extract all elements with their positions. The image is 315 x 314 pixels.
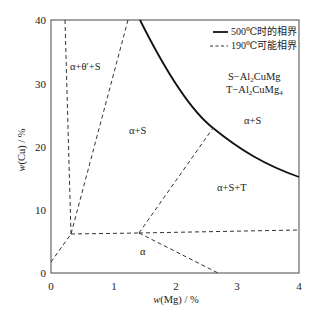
dashed-left-vertical [65,20,71,234]
dashed-alpha-s-t-boundary [139,128,213,233]
x-axis-title: w(Mg) / % [153,294,199,306]
x-tick-4: 4 [296,280,302,292]
x-tick-2: 2 [173,280,179,292]
dashed-lower-right [139,233,218,273]
legend-dashed-label: 190℃可能相界 [231,39,297,51]
x-tick-0: 0 [48,280,54,292]
y-tick-20: 20 [35,141,47,153]
dashed-left-slant [71,20,128,234]
plot-frame [51,20,299,273]
y-axis-ticks: 40 30 20 10 0 [35,14,47,279]
s-phase-formula: S−Al2CuMg [228,71,281,84]
y-tick-40: 40 [35,14,47,26]
boundaries-190c [51,20,299,273]
region-alpha: α [140,246,146,257]
legend-solid-label: 500℃时的相界 [231,25,297,37]
y-tick-0: 0 [41,267,47,279]
x-axis-ticks: 0 1 2 3 4 [48,280,302,292]
dashed-horizontal-right [139,230,299,233]
dashed-horizontal-left [71,233,139,234]
x-tick-1: 1 [111,280,117,292]
x-tick-3: 3 [234,280,240,292]
y-tick-30: 30 [35,78,47,90]
phase-diagram: 40 30 20 10 0 0 1 2 3 4 w(Mg) / % w(Cu) … [0,0,315,314]
dashed-lower-left [51,234,71,262]
legend: 500℃时的相界 190℃可能相界 [210,25,297,51]
region-alpha-theta-s: α+θ′+S [70,61,101,72]
region-alpha-s-t: α+S+T [217,182,247,193]
t-phase-formula: T−Al2CuMg4 [226,84,283,97]
region-alpha-s-right: α+S [244,115,261,126]
y-tick-10: 10 [35,204,47,216]
y-axis-title: w(Cu) / % [16,128,28,171]
region-alpha-s-left: α+S [129,125,146,136]
phase-notation: S−Al2CuMg T−Al2CuMg4 [226,71,283,97]
